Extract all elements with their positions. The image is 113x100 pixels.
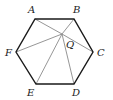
hexagon-diagram: ABCDEFQ — [0, 0, 113, 100]
segment-q-f — [16, 34, 62, 52]
segment-q-e — [36, 34, 62, 84]
label-a: A — [27, 4, 35, 15]
segment-q-a — [35, 19, 62, 34]
label-q: Q — [66, 39, 74, 50]
hexagon-outline — [16, 19, 93, 84]
segments-from-q — [16, 19, 93, 84]
label-b: B — [72, 4, 80, 15]
label-c: C — [97, 47, 105, 58]
segment-q-b — [62, 19, 74, 34]
label-f: F — [4, 47, 13, 58]
label-e: E — [26, 87, 35, 98]
label-d: D — [71, 87, 80, 98]
